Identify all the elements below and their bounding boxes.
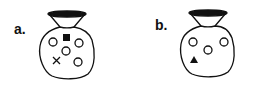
bag-a <box>40 11 95 79</box>
bag-a-opening <box>48 11 86 17</box>
open-circle-icon <box>220 38 228 46</box>
open-circle-icon <box>204 46 212 54</box>
bag-b-body <box>181 26 235 77</box>
filled-square-icon <box>63 34 70 41</box>
open-circle-icon <box>189 38 197 46</box>
bag-b-opening <box>189 10 227 16</box>
bag-b <box>181 10 235 77</box>
open-circle-icon <box>49 38 57 46</box>
bags-diagram <box>0 0 262 86</box>
open-circle-icon <box>62 47 70 55</box>
open-circle-icon <box>74 58 82 66</box>
open-circle-icon <box>75 39 83 47</box>
filled-triangle-icon <box>190 56 198 63</box>
cross-icon <box>53 57 60 64</box>
